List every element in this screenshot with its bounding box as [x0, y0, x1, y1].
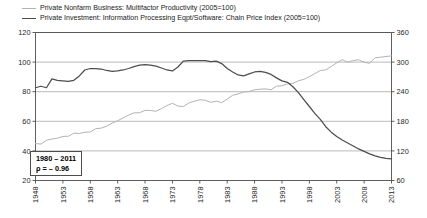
x-axis-tick-label: 1988: [250, 187, 259, 203]
y-axis-left-tick-label: 120: [18, 28, 30, 37]
y-axis-right-tick-label: 240: [397, 87, 409, 96]
series-line-chain-price-index: [36, 61, 392, 159]
x-axis-tick-label: 2013: [387, 187, 396, 203]
data-series: [36, 56, 392, 159]
y-axis-left-tick-label: 60: [22, 117, 30, 126]
chart-container: Private Nonfarm Business: Multifactor Pr…: [0, 0, 427, 218]
y-axis-left-tick-label: 80: [22, 87, 30, 96]
x-axis-tick-label: 1973: [168, 187, 177, 203]
y-axis-right-tick-label: 120: [397, 147, 409, 156]
x-axis-tick-label: 1963: [113, 187, 122, 203]
annotation-box: 1980 – 2011 ρ = – 0.96: [30, 151, 82, 176]
x-axis-tick-label: 1958: [86, 187, 95, 203]
grid-lines: [36, 33, 392, 151]
y-axis-left-tick-label: 100: [18, 58, 30, 67]
axis-lines: [36, 33, 392, 181]
annotation-correlation: ρ = – 0.96: [36, 164, 76, 174]
x-axis-tick-label: 1968: [141, 187, 150, 203]
x-axis-tick-label: 1998: [305, 187, 314, 203]
axis-ticks: [33, 33, 395, 184]
chart-svg: 2040608010012060120180240300360194819531…: [0, 0, 427, 218]
axis-tick-labels: 2040608010012060120180240300360194819531…: [18, 28, 409, 203]
y-axis-left-tick-label: 20: [22, 176, 30, 185]
y-axis-right-tick-label: 180: [397, 117, 409, 126]
x-axis-tick-label: 1983: [223, 187, 232, 203]
y-axis-right-tick-label: 360: [397, 28, 409, 37]
x-axis-tick-label: 1978: [196, 187, 205, 203]
x-axis-tick-label: 1953: [59, 187, 68, 203]
plot-area: 2040608010012060120180240300360194819531…: [0, 0, 427, 218]
x-axis-tick-label: 1948: [31, 187, 40, 203]
x-axis-tick-label: 2008: [360, 187, 369, 203]
x-axis-tick-label: 1993: [278, 187, 287, 203]
annotation-period: 1980 – 2011: [36, 154, 76, 164]
y-axis-right-tick-label: 300: [397, 58, 409, 67]
x-axis-tick-label: 2003: [333, 187, 342, 203]
y-axis-right-tick-label: 60: [397, 176, 405, 185]
